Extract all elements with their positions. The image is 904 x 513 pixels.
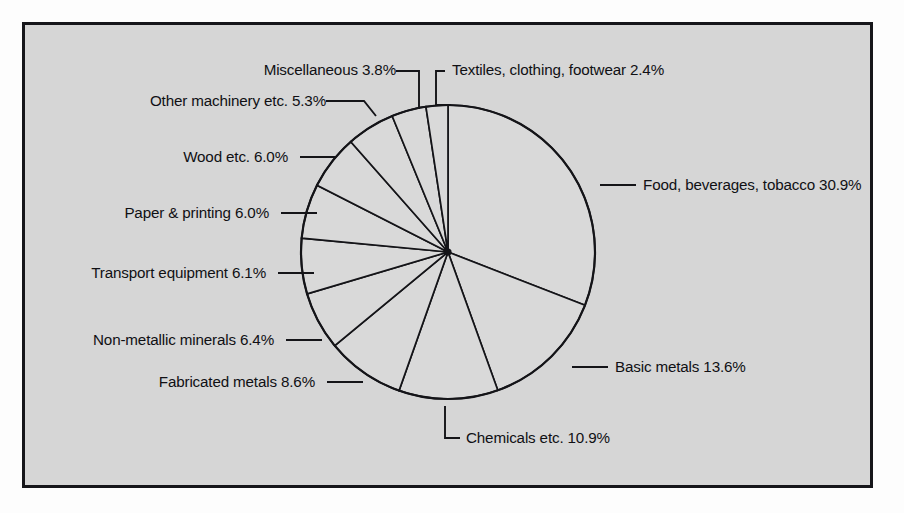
label-food: Food, beverages, tobacco 30.9%: [643, 177, 861, 192]
label-miscellaneous: Miscellaneous 3.8%: [264, 62, 396, 77]
leader-line-other-machinery: [326, 101, 376, 116]
leader-line-miscellaneous: [396, 71, 419, 109]
label-paper-printing: Paper & printing 6.0%: [124, 205, 269, 220]
label-basic-metals: Basic metals 13.6%: [615, 359, 746, 374]
label-chemicals: Chemicals etc. 10.9%: [466, 430, 610, 445]
leader-line-textiles: [436, 71, 451, 105]
label-non-metallic-minerals: Non-metallic minerals 6.4%: [93, 332, 274, 347]
label-wood: Wood etc. 6.0%: [183, 149, 288, 164]
label-textiles: Textiles, clothing, footwear 2.4%: [452, 62, 664, 77]
pie-center-hub: [444, 248, 451, 255]
leader-line-chemicals: [445, 406, 460, 438]
label-transport-equipment: Transport equipment 6.1%: [91, 265, 266, 280]
label-other-machinery: Other machinery etc. 5.3%: [150, 93, 326, 108]
label-fabricated-metals: Fabricated metals 8.6%: [159, 374, 315, 389]
figure-canvas: Food, beverages, tobacco 30.9% Basic met…: [0, 0, 904, 513]
